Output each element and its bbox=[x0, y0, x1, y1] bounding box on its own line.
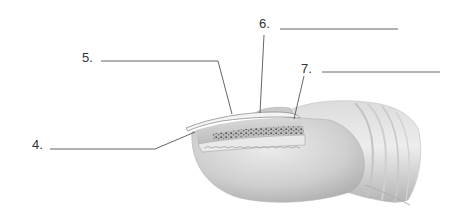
leader-line-6 bbox=[260, 35, 264, 113]
label-4: 4. bbox=[32, 138, 43, 151]
nail-diagram: 5. 6. 7. 4. bbox=[0, 0, 463, 223]
answer-field-6[interactable] bbox=[281, 15, 397, 28]
answer-field-5[interactable] bbox=[102, 47, 217, 60]
label-5: 5. bbox=[82, 51, 93, 64]
label-7: 7. bbox=[301, 62, 312, 75]
finger-illustration bbox=[0, 0, 463, 223]
label-6: 6. bbox=[259, 17, 270, 30]
answer-field-7[interactable] bbox=[323, 58, 439, 71]
answer-field-4[interactable] bbox=[51, 135, 154, 148]
leader-line-4 bbox=[155, 132, 195, 149]
leader-line-5 bbox=[218, 61, 232, 114]
